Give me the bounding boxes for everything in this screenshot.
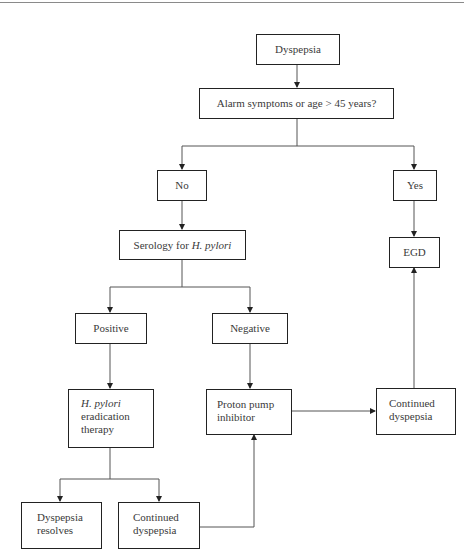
node-proton-pump-inhibitor: Proton pump inhibitor [206,389,292,435]
node-label: Yes [407,179,423,192]
node-label-line2: resolves [37,524,101,537]
node-label-line2: dyspepsia [133,524,199,537]
node-continued-dyspepsia-right: Continued dyspepsia [376,388,456,435]
node-label-line2: dyspepsia [389,410,455,423]
node-serology: Serology for H. pylori [119,230,246,260]
node-label-line2: inhibitor [217,411,291,424]
node-label-italic: H. pylori [192,239,232,251]
node-label-line2: eradication [81,410,153,423]
node-label: EGD [403,246,426,259]
node-label-line1: Continued [389,397,455,410]
node-label: Serology for H. pylori [134,239,232,252]
node-label: Positive [93,322,128,335]
node-label-text: Serology for [134,239,192,251]
node-no: No [157,170,207,201]
node-dyspepsia-resolves: Dyspepsia resolves [21,502,102,549]
node-egd: EGD [389,237,440,268]
connector-lines [0,0,464,556]
node-label: No [175,179,188,192]
node-label: Negative [230,322,270,335]
node-continued-dyspepsia-bottom: Continued dyspepsia [118,502,200,549]
node-label-line3: therapy [81,423,153,436]
node-label-line1: Continued [133,511,199,524]
node-label-line1: Proton pump [217,398,291,411]
node-label-line1: Dyspepsia [37,511,101,524]
node-yes: Yes [393,170,437,201]
node-label: Dyspepsia [275,43,321,56]
node-dyspepsia: Dyspepsia [256,34,340,65]
node-negative: Negative [212,313,288,344]
node-positive: Positive [75,313,147,344]
node-alarm-symptoms-question: Alarm symptoms or age > 45 years? [199,88,394,119]
node-label-line1: H. pylori [81,397,153,410]
node-label: Alarm symptoms or age > 45 years? [217,97,377,110]
node-hpylori-eradication-therapy: H. pylori eradication therapy [68,389,154,448]
